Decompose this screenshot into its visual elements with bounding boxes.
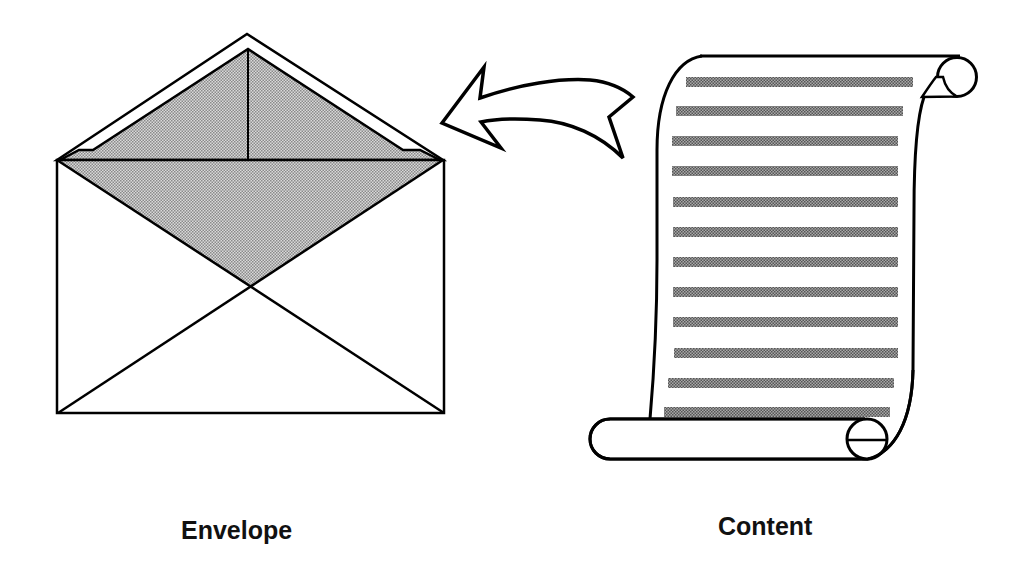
- text-line: [673, 257, 898, 267]
- text-line: [668, 378, 894, 388]
- text-line: [673, 317, 898, 327]
- text-line: [673, 287, 898, 297]
- text-line: [672, 166, 898, 176]
- text-line: [673, 197, 898, 207]
- envelope-inner-v: [57, 160, 443, 287]
- text-line: [674, 348, 898, 358]
- envelope-content-diagram: [0, 0, 1029, 568]
- text-line: [686, 77, 913, 87]
- text-line: [672, 136, 898, 146]
- envelope-label: Envelope: [181, 516, 292, 545]
- text-line: [664, 407, 890, 417]
- scroll-icon: [590, 56, 978, 459]
- envelope-icon: [57, 34, 444, 413]
- arrow-icon: [442, 67, 633, 158]
- text-line: [676, 106, 903, 116]
- text-line: [673, 227, 898, 237]
- envelope-flap-inner: [60, 49, 440, 160]
- content-label: Content: [718, 512, 812, 541]
